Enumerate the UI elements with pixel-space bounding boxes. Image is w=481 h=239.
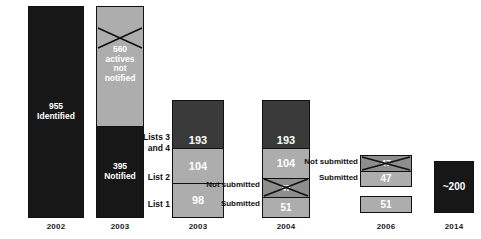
stacked-bar-chart: 955 Identified 2002 560 actives not noti… (0, 0, 481, 239)
year-label-2003-lists: 2003 (172, 222, 224, 231)
side-label-2004-submitted: Submitted (190, 199, 260, 209)
bar-2006-segment-submitted: 47 (361, 171, 411, 186)
year-label-2014: 2014 (434, 222, 474, 231)
bar-2003-lists-segment-list2-value: 104 (189, 160, 207, 172)
side-label-2006-not-submitted: Not submitted (288, 157, 358, 167)
year-label-2006: 2006 (360, 222, 412, 231)
bar-2003-segment-not-notified-label: actives not notified (105, 55, 136, 84)
bar-2003-notification: 560 actives not notified 395 Notified (96, 6, 144, 218)
bar-2002-segment-identified-label: Identified (37, 112, 75, 122)
side-label-2004-not-submitted: Not submitted (190, 180, 260, 190)
bar-2004-segment-submitted: 51 (263, 197, 309, 217)
bar-2003-lists-segment-lists34: 193 (173, 101, 223, 148)
side-label-lists-3-and-4: Lists 3 and 4 (112, 132, 170, 153)
bar-2003-segment-not-notified: 560 actives not notified (97, 7, 143, 126)
bar-2003-lists-segment-list2: 104 (173, 148, 223, 183)
bar-2006-segment-not-submitted-value: 47 (381, 158, 391, 168)
bar-2003-lists-segment-lists34-value: 193 (189, 134, 207, 146)
bar-2006-segment-not-submitted: 47 (361, 156, 411, 171)
year-label-2002: 2002 (28, 222, 84, 231)
year-label-2003-notification: 2003 (96, 222, 144, 231)
bar-2002: 955 Identified (28, 6, 84, 218)
side-label-list-1: List 1 (112, 199, 170, 210)
bar-2002-segment-identified: 955 Identified (29, 7, 83, 217)
year-label-2004: 2004 (262, 222, 310, 231)
bar-2006-segment-remaining: 51 (361, 197, 411, 212)
bar-2014: ~200 (434, 161, 474, 213)
bar-2006-segment-submitted-value: 47 (380, 173, 391, 184)
bar-2004-segment-submitted-value: 51 (280, 202, 291, 213)
bar-2006-segment-remaining-value: 51 (380, 199, 391, 210)
bar-2014-segment-estimate: ~200 (435, 162, 473, 212)
side-label-2006-submitted: Submitted (288, 173, 358, 183)
bar-2014-segment-estimate-value: ~200 (443, 181, 466, 192)
bar-2006-remaining: 51 (360, 196, 412, 213)
bar-2004-segment-not-submitted-value: 47 (281, 183, 291, 193)
bar-2006-submission: 47 47 (360, 155, 412, 187)
bar-2004-segment-lists34-value: 193 (277, 134, 295, 146)
side-label-list-2: List 2 (112, 172, 170, 183)
bar-2004-segment-lists34: 193 (263, 101, 309, 148)
